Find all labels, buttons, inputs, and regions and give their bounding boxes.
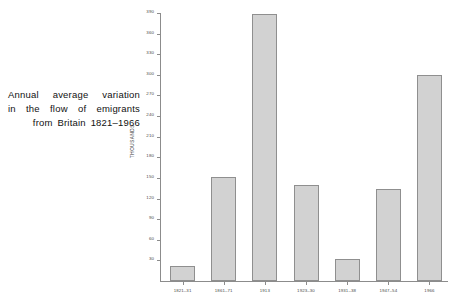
bar [376,189,401,281]
bar [294,185,319,281]
y-tick-label: 270 [146,91,154,97]
chart-figure: Annual average variation in the flow of … [0,0,459,304]
y-tick-label: 60 [149,236,154,242]
y-tick-label: 90 [149,215,154,221]
y-tick: 120 [157,199,161,200]
plot-area: THOUSANDS 306090120150180210240270300330… [160,6,450,298]
bar [417,75,442,281]
bar [252,14,277,281]
x-tick-label: 1931–38 [338,288,356,294]
y-tick: 240 [157,116,161,117]
caption-line-3: from Britain 1821–1966 [8,116,140,130]
y-tick: 180 [157,157,161,158]
y-tick-label: 120 [146,195,154,201]
y-tick: 210 [157,137,161,138]
x-tick [224,281,225,285]
x-tick-label: 1966 [424,288,434,294]
x-axis-line [160,281,448,282]
bar [211,177,236,281]
y-tick-label: 30 [149,256,154,262]
bar [335,259,360,281]
x-tick-label: 1923–30 [297,288,315,294]
y-tick: 60 [157,240,161,241]
y-tick-label: 240 [146,112,154,118]
y-tick: 90 [157,219,161,220]
y-tick: 270 [157,95,161,96]
x-tick-label: 1821–31 [174,288,192,294]
y-tick-label: 150 [146,174,154,180]
y-tick: 150 [157,178,161,179]
y-tick: 300 [157,75,161,76]
x-tick [265,281,266,285]
caption-line-1: Annual average variation [8,88,140,102]
y-tick-label: 180 [146,153,154,159]
y-tick: 360 [157,34,161,35]
y-tick-label: 330 [146,50,154,56]
y-tick-label: 390 [146,9,154,15]
x-tick-label: 1861–71 [215,288,233,294]
y-tick: 30 [157,260,161,261]
x-tick-label: 1947–54 [379,288,397,294]
caption-line-2: in the flow of emigrants [8,102,140,116]
x-tick [306,281,307,285]
y-tick: 330 [157,54,161,55]
y-tick-label: 300 [146,71,154,77]
x-tick [429,281,430,285]
x-tick [347,281,348,285]
bar [170,266,195,281]
y-tick: 390 [157,13,161,14]
x-tick [388,281,389,285]
x-tick-label: 1913 [260,288,270,294]
chart-caption: Annual average variation in the flow of … [8,88,140,130]
y-tick-label: 210 [146,133,154,139]
y-axis-title: THOUSANDS [130,124,135,158]
x-tick [183,281,184,285]
y-tick-label: 360 [146,30,154,36]
